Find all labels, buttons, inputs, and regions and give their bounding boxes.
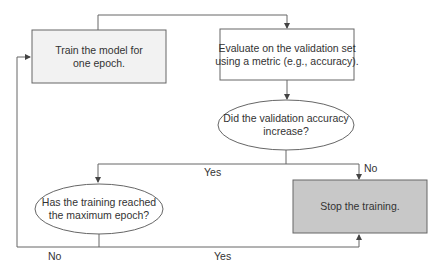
edge-accuracy-yes <box>98 150 286 182</box>
svg-text:Did the validation accuracy: Did the validation accuracy <box>223 112 349 124</box>
train-node: Train the model for one epoch. <box>32 30 166 83</box>
label-max-epoch-yes: Yes <box>214 250 231 262</box>
accuracy-decision-node: Did the validation accuracy increase? <box>218 100 354 150</box>
svg-text:one epoch.: one epoch. <box>73 57 125 69</box>
evaluate-node: Evaluate on the validation set using a m… <box>215 29 359 80</box>
svg-text:increase?: increase? <box>263 125 309 137</box>
svg-text:using a metric (e.g., accuracy: using a metric (e.g., accuracy). <box>215 55 359 67</box>
edge-accuracy-no <box>286 164 359 179</box>
edge-max-epoch-yes <box>99 235 359 247</box>
svg-text:Has the training reached: Has the training reached <box>42 196 157 208</box>
svg-text:Evaluate on the validation set: Evaluate on the validation set <box>218 42 355 54</box>
label-max-epoch-no: No <box>48 250 62 262</box>
edge-train-to-evaluate <box>98 15 287 30</box>
stop-node: Stop the training. <box>293 180 427 233</box>
label-accuracy-yes: Yes <box>204 166 221 178</box>
label-accuracy-no: No <box>364 162 378 174</box>
svg-text:Train the model for: Train the model for <box>55 44 143 56</box>
svg-text:Stop the training.: Stop the training. <box>320 200 399 212</box>
flowchart: Train the model for one epoch. Evaluate … <box>0 0 441 271</box>
svg-text:the maximum epoch?: the maximum epoch? <box>49 209 150 221</box>
max-epoch-decision-node: Has the training reached the maximum epo… <box>35 184 163 234</box>
